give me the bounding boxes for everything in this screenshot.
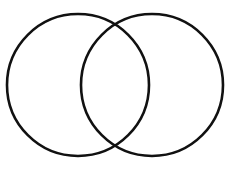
venn-diagram-canvas: Nonredox Redox [0,0,231,171]
venn-label-redox: Redox [230,49,231,122]
venn-circle-nonredox [7,14,149,156]
venn-label-redox-textpath: Redox [230,49,231,122]
venn-circle-redox [81,14,223,156]
venn-diagram: Nonredox Redox [0,0,231,171]
